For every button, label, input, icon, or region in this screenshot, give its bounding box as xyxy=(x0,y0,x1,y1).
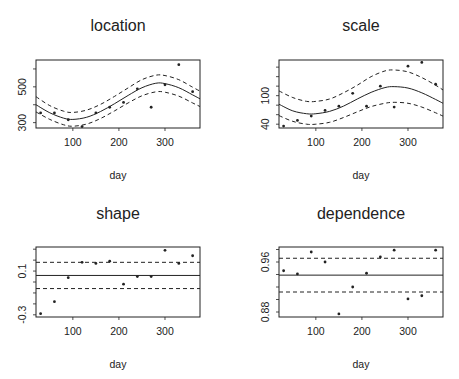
data-point xyxy=(150,275,153,278)
plot-area: 100200300-0.30.1 xyxy=(16,247,200,337)
x-axis-label: day xyxy=(353,358,371,370)
plot-area: 1002003000.880.96 xyxy=(259,247,443,337)
x-tick-label: 200 xyxy=(353,136,371,148)
data-point xyxy=(122,101,125,104)
data-point xyxy=(53,112,56,115)
data-point xyxy=(136,87,139,90)
x-tick-label: 100 xyxy=(307,136,325,148)
plot-frame xyxy=(279,247,443,317)
panel-title: shape xyxy=(96,205,140,222)
x-tick-label: 300 xyxy=(399,136,417,148)
y-tick-label: -0.3 xyxy=(16,306,28,324)
x-tick-label: 200 xyxy=(110,136,128,148)
data-point xyxy=(337,105,340,108)
plot-frame xyxy=(36,60,200,128)
y-tick-label: 100 xyxy=(259,87,271,105)
data-point xyxy=(164,83,167,86)
x-tick-label: 300 xyxy=(156,325,174,337)
data-point xyxy=(310,115,313,118)
data-point xyxy=(379,256,382,259)
data-point xyxy=(108,106,111,109)
x-axis-label: day xyxy=(110,358,128,370)
panel-title: scale xyxy=(342,17,379,34)
data-point xyxy=(94,112,97,115)
data-point xyxy=(310,251,313,254)
y-tick-label: 300 xyxy=(16,114,28,132)
data-point xyxy=(420,61,423,64)
data-point xyxy=(324,261,327,264)
data-point xyxy=(150,106,153,109)
panel-scale: scale day 10020030040100 xyxy=(259,17,443,181)
panel-location: location day 100200300300500 xyxy=(16,17,200,181)
y-tick-label: 40 xyxy=(259,118,271,130)
x-tick-label: 100 xyxy=(64,136,82,148)
data-point xyxy=(108,260,111,263)
x-tick-label: 200 xyxy=(110,325,128,337)
x-tick-label: 300 xyxy=(399,325,417,337)
data-point xyxy=(81,125,84,128)
data-point xyxy=(136,275,139,278)
x-axis-label: day xyxy=(110,169,128,181)
data-point xyxy=(164,249,167,252)
lower-confidence-band xyxy=(36,92,200,127)
data-point xyxy=(39,312,42,315)
data-point xyxy=(191,254,194,257)
data-point xyxy=(365,105,368,108)
data-point xyxy=(393,249,396,252)
data-point xyxy=(282,125,285,128)
y-tick-label: 0.88 xyxy=(259,302,271,323)
panel-dependence: dependence day 1002003000.880.96 xyxy=(259,205,443,370)
x-tick-label: 200 xyxy=(353,325,371,337)
data-point xyxy=(407,297,410,300)
data-point xyxy=(67,118,70,121)
data-point xyxy=(420,294,423,297)
data-point xyxy=(434,249,437,252)
data-point xyxy=(67,276,70,279)
y-tick-label: 0.96 xyxy=(259,252,271,273)
data-point xyxy=(365,272,368,275)
data-point xyxy=(177,262,180,265)
plot-frame xyxy=(279,60,443,128)
data-point xyxy=(122,283,125,286)
data-point xyxy=(191,90,194,93)
y-tick-label: 0.1 xyxy=(16,264,28,279)
data-point xyxy=(282,269,285,272)
data-point xyxy=(296,119,299,122)
panel-shape: shape day 100200300-0.30.1 xyxy=(16,205,200,370)
y-tick-label: 500 xyxy=(16,78,28,96)
data-point xyxy=(177,63,180,66)
x-axis-label: day xyxy=(353,169,371,181)
data-point xyxy=(39,112,42,115)
panel-title: location xyxy=(90,17,145,34)
data-point xyxy=(53,300,56,303)
x-tick-label: 100 xyxy=(307,325,325,337)
data-point xyxy=(351,92,354,95)
plot-frame xyxy=(36,247,200,317)
plot-area: 10020030040100 xyxy=(259,60,443,148)
upper-confidence-band xyxy=(36,75,200,113)
data-point xyxy=(379,85,382,88)
fitted-curve xyxy=(36,83,200,120)
figure-2x2-panels: location day 100200300300500 scale day 1… xyxy=(0,0,459,379)
data-point xyxy=(94,262,97,265)
data-point xyxy=(324,109,327,112)
data-point xyxy=(351,286,354,289)
data-point xyxy=(296,272,299,275)
panel-title: dependence xyxy=(317,205,405,222)
x-tick-label: 100 xyxy=(64,325,82,337)
data-point xyxy=(337,312,340,315)
data-point xyxy=(393,106,396,109)
data-point xyxy=(81,261,84,264)
x-tick-label: 300 xyxy=(156,136,174,148)
data-point xyxy=(434,83,437,86)
plot-area: 100200300300500 xyxy=(16,60,200,148)
data-point xyxy=(407,65,410,68)
